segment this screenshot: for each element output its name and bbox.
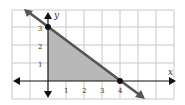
- point-y-intercept: [45, 24, 51, 30]
- x-tick-2: 2: [82, 87, 86, 95]
- y-tick-1: 1: [38, 61, 42, 69]
- x-axis-label: x: [168, 67, 173, 77]
- y-axis-label: y: [53, 10, 60, 20]
- x-tick-4: 4: [118, 87, 123, 95]
- graph: y x 1 2 3 4 1 2 3: [0, 0, 185, 105]
- y-tick-2: 2: [38, 43, 42, 51]
- y-axis-arrow-up-icon: [44, 12, 52, 19]
- point-x-intercept: [117, 78, 123, 84]
- grid: [12, 10, 174, 99]
- x-axis-arrow-right-icon: [169, 77, 176, 85]
- x-tick-3: 3: [100, 87, 104, 95]
- y-tick-3: 3: [38, 25, 42, 33]
- y-axis-arrow-down-icon: [44, 91, 52, 98]
- x-tick-1: 1: [64, 87, 68, 95]
- x-axis-arrow-left-icon: [13, 77, 20, 85]
